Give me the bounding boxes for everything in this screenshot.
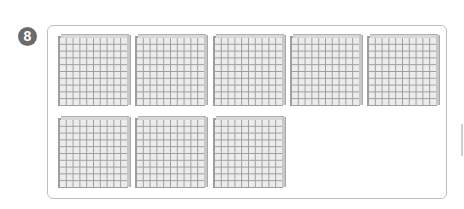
hundred-block [290, 36, 360, 106]
side-divider [461, 124, 463, 156]
hundred-block [367, 36, 437, 106]
hundred-block [58, 36, 128, 106]
hundred-block [213, 118, 283, 188]
hundred-block [58, 118, 128, 188]
hundred-block [135, 36, 205, 106]
problem-number-badge: 8 [18, 27, 37, 46]
hundred-block [213, 36, 283, 106]
hundred-block [135, 118, 205, 188]
